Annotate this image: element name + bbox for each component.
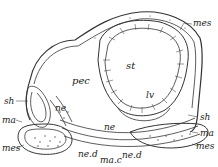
label-mes-right: mes bbox=[196, 142, 214, 151]
label-st: st bbox=[126, 61, 135, 71]
label-sh-left: sh bbox=[4, 97, 14, 106]
label-mes-top: mes bbox=[193, 19, 211, 28]
label-ne-d-right: ne.d bbox=[122, 151, 142, 160]
label-ne-center: ne bbox=[104, 123, 115, 132]
label-lv: lv bbox=[146, 91, 154, 100]
label-mes-left: mes bbox=[2, 144, 20, 153]
label-ma-c: ma.c bbox=[100, 156, 122, 165]
label-pec: pec bbox=[72, 76, 90, 86]
label-ne-d-left: ne.d bbox=[78, 150, 98, 159]
label-ma-left: ma bbox=[2, 116, 16, 125]
embryo-section-diagram bbox=[0, 0, 218, 167]
label-ma-right: ma bbox=[200, 129, 214, 138]
label-sh-right: sh bbox=[200, 113, 210, 122]
label-ne-left: ne bbox=[55, 104, 66, 113]
